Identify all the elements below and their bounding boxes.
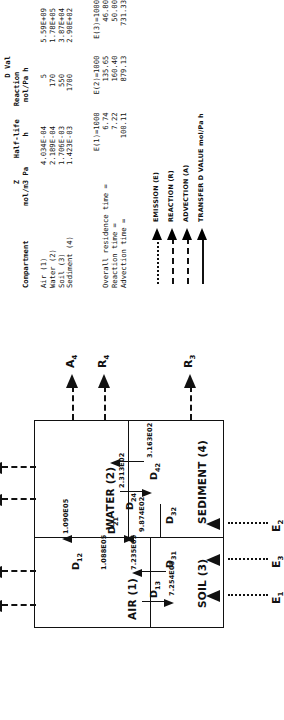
transfer-label-d12: D12 bbox=[70, 553, 84, 570]
legend-label-advection: ADVECTION (A) bbox=[182, 165, 190, 222]
transfer-arrow-d24-line bbox=[120, 491, 144, 492]
transfer-sub-d24: 24 bbox=[130, 493, 138, 502]
transfer-label-d13: D13 bbox=[148, 581, 162, 598]
reaction-arrowhead-r1 bbox=[0, 601, 2, 613]
emission-arrowhead-e1 bbox=[206, 591, 220, 603]
reaction-leader-r3 bbox=[190, 386, 192, 420]
emission-arrowhead-e3 bbox=[206, 555, 220, 567]
transfer-sub-d12: 12 bbox=[76, 553, 84, 562]
legend-line-emission bbox=[157, 238, 159, 284]
transfer-sub-d42: 42 bbox=[154, 463, 162, 472]
transfer-sub-d31: 31 bbox=[170, 551, 178, 560]
advection-arrowhead-a2 bbox=[0, 463, 2, 475]
transfer-arrow-d12-shaft bbox=[72, 537, 98, 538]
transfer-label-d24: D24 bbox=[124, 493, 138, 510]
advection-label-a4: A4 bbox=[64, 355, 79, 368]
results-table-block: D Val Z Half-life Reaction Compartment m… bbox=[4, 0, 129, 288]
summary-value: 731.33 bbox=[120, 0, 129, 56]
transfer-arrow-d42-head bbox=[110, 459, 120, 467]
advection-arrowhead-a1 bbox=[0, 567, 2, 579]
figure-root: AIR (1) WATER (2) SOIL (3) SEDIMENT (4) … bbox=[0, 0, 261, 720]
compartment-label-sediment: SEDIMENT (4) bbox=[196, 440, 208, 524]
legend-line-transfer bbox=[202, 238, 204, 284]
transfer-value-d21: 1.088E05 bbox=[100, 535, 108, 570]
summary-table: E(1)=1000 E(2)=1000 E(3)=1000 Overall re… bbox=[93, 0, 129, 288]
transfer-arrow-d32-line bbox=[160, 504, 161, 538]
reaction-sub-r4: 4 bbox=[103, 355, 111, 360]
cell-reaction: 2.90E+02 bbox=[66, 8, 75, 74]
summary-label: Advection time = bbox=[120, 166, 129, 288]
reaction-leader-r1 bbox=[2, 604, 36, 606]
mass-balance-diagram: AIR (1) WATER (2) SOIL (3) SEDIMENT (4) … bbox=[0, 290, 261, 720]
transfer-value-d32: 9.874E02 bbox=[138, 497, 146, 532]
legend-arrowhead-advection bbox=[182, 228, 192, 240]
legend-label-reaction: REACTION (R) bbox=[167, 170, 175, 222]
emission-leader-e1 bbox=[228, 594, 261, 596]
advection-arrowhead-a4 bbox=[66, 374, 78, 388]
legend-label-transfer: TRANSFER D VALUE mol/Pa h bbox=[197, 113, 205, 222]
cell-bulk-z: 1.423E-03 bbox=[66, 126, 75, 198]
reaction-arrowhead-r4 bbox=[98, 374, 110, 388]
transfer-arrow-d32-riser bbox=[134, 537, 161, 538]
reaction-arrowhead-r2 bbox=[0, 495, 2, 507]
transfer-arrow-d32-head bbox=[124, 535, 134, 543]
figure-canvas: AIR (1) WATER (2) SOIL (3) SEDIMENT (4) … bbox=[0, 0, 261, 720]
summary-value: 879.13 bbox=[120, 56, 129, 113]
transfer-label-d31: D31 bbox=[164, 551, 178, 568]
legend-arrowhead-reaction bbox=[167, 228, 177, 240]
transfer-arrow-d42-line bbox=[120, 461, 144, 462]
transfer-arrow-d13-head bbox=[164, 599, 174, 607]
advection-leader-a1 bbox=[2, 570, 36, 572]
compartment-label-air: AIR (1) bbox=[126, 578, 138, 620]
transfer-label-d32: D32 bbox=[164, 507, 178, 524]
legend-label-emission: EMISSION (E) bbox=[152, 172, 160, 222]
table-row: Sediment (4) 1.423E-03 1700 2.90E+02 bbox=[66, 8, 75, 288]
compartment-table: Air (1) 4.034E-04 5 5.59E+09 Water (2) 2… bbox=[40, 8, 76, 288]
table-header-line-2: Compartment mol/m3 Pa h mol/Pa h bbox=[22, 0, 31, 288]
legend-arrowhead-emission bbox=[152, 228, 162, 240]
water-sediment-divider bbox=[128, 420, 129, 538]
reaction-arrowhead-r3 bbox=[184, 374, 196, 388]
transfer-arrow-d12-head bbox=[62, 535, 72, 543]
legend-line-advection bbox=[187, 238, 189, 284]
transfer-arrow-d31-line bbox=[142, 571, 166, 572]
transfer-sub-d32: 32 bbox=[170, 507, 178, 516]
reaction-label-r3: R3 bbox=[182, 355, 197, 368]
cell-compartment: Sediment (4) bbox=[66, 198, 75, 288]
advection-leader-a2 bbox=[2, 466, 36, 468]
reaction-leader-r2 bbox=[2, 498, 36, 500]
summary-value: 100.11 bbox=[120, 112, 129, 165]
transfer-value-d42: 3.163E02 bbox=[146, 423, 154, 458]
transfer-sub-d21: 21 bbox=[112, 517, 120, 526]
transfer-arrow-d13-line bbox=[142, 601, 166, 602]
advection-leader-a4 bbox=[72, 386, 74, 420]
emission-leader-e2 bbox=[228, 522, 261, 524]
transfer-label-d21: D21 bbox=[106, 517, 120, 534]
reaction-label-r4: R4 bbox=[96, 355, 111, 368]
cell-half-life: 1700 bbox=[66, 74, 75, 126]
reaction-sub-r3: 3 bbox=[189, 355, 197, 360]
emission-leader-e3 bbox=[228, 558, 261, 560]
transfer-sub-d13: 13 bbox=[154, 581, 162, 590]
transfer-arrow-d24-head bbox=[142, 489, 152, 497]
reaction-leader-r4 bbox=[104, 386, 106, 420]
transfer-label-d42: D42 bbox=[148, 463, 162, 480]
transfer-value-d12: 1.090E05 bbox=[62, 499, 70, 534]
legend-arrowhead-transfer bbox=[197, 228, 207, 240]
advection-sub-a4: 4 bbox=[71, 355, 79, 360]
emission-arrowhead-e2 bbox=[206, 519, 220, 531]
legend-line-reaction bbox=[172, 238, 174, 284]
summary-row: Advection time = 100.11 879.13 731.33 bbox=[120, 0, 129, 288]
